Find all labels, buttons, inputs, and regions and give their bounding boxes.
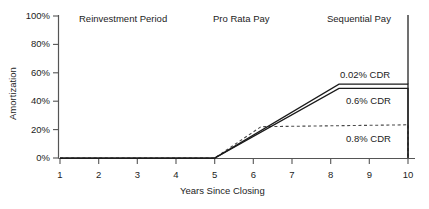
- y-tick-label-100: 100%: [10, 11, 50, 21]
- x-tick-label-9: 9: [357, 170, 381, 180]
- x-tick-label-8: 8: [319, 170, 343, 180]
- x-axis-title: Years Since Closing: [180, 186, 265, 196]
- region-label-sequential-pay: Sequential Pay: [327, 14, 391, 24]
- x-tick-label-10: 10: [396, 170, 420, 180]
- region-label-reinvestment-period: Reinvestment Period: [79, 14, 167, 24]
- x-tick-label-2: 2: [87, 170, 111, 180]
- y-tick-label-20: 20%: [10, 125, 50, 135]
- x-axis-ticks: [60, 159, 408, 165]
- y-axis-ticks: [53, 16, 59, 158]
- region-label-pro-rata-pay: Pro Rata Pay: [213, 14, 270, 24]
- x-tick-label-3: 3: [125, 170, 149, 180]
- x-tick-label-1: 1: [48, 170, 72, 180]
- x-tick-label-5: 5: [203, 170, 227, 180]
- series-annotation-cdr-002: 0.02% CDR: [340, 70, 390, 80]
- x-tick-label-6: 6: [241, 170, 265, 180]
- series-annotation-cdr-08: 0.8% CDR: [346, 134, 391, 144]
- y-tick-label-0: 0%: [10, 153, 50, 163]
- x-tick-label-4: 4: [164, 170, 188, 180]
- x-tick-label-7: 7: [280, 170, 304, 180]
- amortization-line-chart: 100% 80% 60% 40% 20% 0% 1 2 3 4 5 6 7 8 …: [0, 0, 429, 209]
- y-axis-title: Amortization: [8, 67, 18, 120]
- series-annotation-cdr-06: 0.6% CDR: [346, 96, 391, 106]
- y-tick-label-80: 80%: [10, 39, 50, 49]
